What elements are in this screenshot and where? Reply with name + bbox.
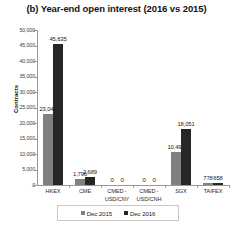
y-axis-tick-label: 20,000 xyxy=(0,120,35,126)
legend-label: Dec 2016 xyxy=(130,210,155,217)
bar xyxy=(171,152,181,185)
y-axis-tick-mark xyxy=(33,92,37,93)
x-axis-tick-mark xyxy=(229,185,230,188)
y-axis-tick-mark xyxy=(33,46,37,47)
y-axis-tick-label: 25,000 xyxy=(0,104,35,110)
y-axis-tick-label: 30,000 xyxy=(0,89,35,95)
y-axis-tick-mark xyxy=(33,185,37,186)
x-axis-category-label: CMED -USD/CNY xyxy=(101,188,133,203)
y-axis-tick-mark xyxy=(33,77,37,78)
bar xyxy=(53,44,63,185)
bar xyxy=(43,114,53,185)
legend-swatch-icon xyxy=(81,211,85,215)
y-axis-tick-mark xyxy=(33,108,37,109)
y-axis-tick-label: 35,000 xyxy=(0,73,35,79)
y-axis-line xyxy=(37,30,38,186)
y-axis-tick-label: 10,000 xyxy=(0,151,35,157)
bar xyxy=(203,183,213,185)
bar-chart: (b) Year-end open interest (2016 vs 2015… xyxy=(0,0,233,226)
bar-value-label: 0 xyxy=(142,177,145,183)
y-axis-tick-label: 45,000 xyxy=(0,42,35,48)
y-axis-tick-mark xyxy=(33,61,37,62)
y-axis-tick-label: 0 xyxy=(0,182,35,188)
x-axis-category-label: CMED -USD/CNH xyxy=(133,188,165,203)
x-axis-category-label: TAIFEX xyxy=(197,188,229,196)
legend-label: Dec 2015 xyxy=(87,210,112,217)
bar-value-label: 2,689 xyxy=(83,169,97,175)
bar-value-label: 0 xyxy=(110,177,113,183)
y-axis-tick-mark xyxy=(33,30,37,31)
x-axis-category-label: SGX xyxy=(165,188,197,196)
legend-item-dec-2015: Dec 2015 xyxy=(81,210,112,217)
y-axis-tick-mark xyxy=(33,139,37,140)
bar-value-label: 658 xyxy=(213,175,222,181)
x-axis-category-label: HKEX xyxy=(37,188,69,196)
bar-value-label: 0 xyxy=(152,177,155,183)
y-axis-tick-mark xyxy=(33,170,37,171)
bar xyxy=(75,179,85,185)
y-axis-tick-label: 50,000 xyxy=(0,27,35,33)
bar xyxy=(213,183,223,185)
chart-title: (b) Year-end open interest (2016 vs 2015… xyxy=(0,3,233,14)
bar-value-label: 18,051 xyxy=(177,121,194,127)
bar xyxy=(181,129,191,185)
y-axis-tick-label: 40,000 xyxy=(0,58,35,64)
bar-value-label: 0 xyxy=(120,177,123,183)
y-axis-tick-mark xyxy=(33,123,37,124)
bar xyxy=(85,177,95,185)
y-axis-tick-label: 15,000 xyxy=(0,135,35,141)
y-axis-tick-mark xyxy=(33,154,37,155)
legend-swatch-icon xyxy=(124,211,128,215)
legend-item-dec-2016: Dec 2016 xyxy=(124,210,155,217)
x-axis-category-label: CME xyxy=(69,188,101,196)
y-axis-tick-label: 5,000 xyxy=(0,166,35,172)
bar-value-label: 778 xyxy=(203,175,212,181)
bar-value-label: 45,635 xyxy=(49,36,66,42)
chart-legend: Dec 2015 Dec 2016 xyxy=(57,205,179,221)
